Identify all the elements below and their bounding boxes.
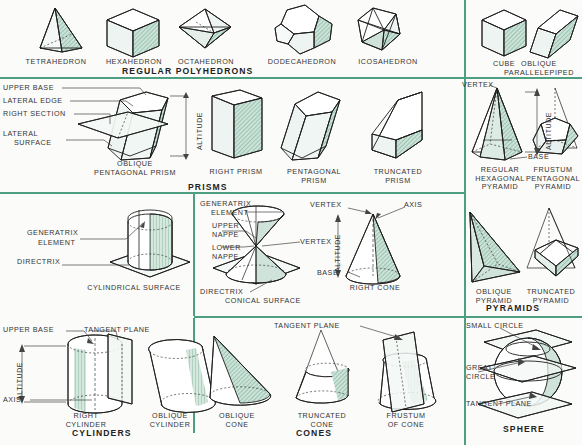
group-label-cylinders: CYLINDERS (72, 428, 132, 438)
group-label-cones: CONES (296, 428, 332, 438)
shape-oblique-cylinder (149, 340, 216, 413)
callout-small-circle: SMALL CIRCLE (466, 322, 524, 331)
label-oblique-cone: OBLIQUE CONE (200, 412, 274, 429)
callout-axis-cylinder: AXIS (3, 396, 21, 405)
shape-truncated-cone (296, 330, 349, 403)
label-oblique-cylinder: OBLIQUE CYLINDER (132, 412, 208, 429)
callout-upper-base-cylinder: UPPER BASE (3, 326, 54, 335)
callout-tangent-plane-cylinder: TANGENT PLANE (84, 326, 150, 335)
shape-oblique-cone (209, 336, 270, 405)
callout-circle: CIRCLE (466, 373, 495, 382)
label-oblique-cone-line2: CONE (200, 421, 274, 430)
shape-frustum-of-cone (378, 332, 436, 412)
label-right-cylinder: RIGHT CYLINDER (48, 412, 124, 429)
label-truncated-cone: TRUNCATED CONE (284, 412, 360, 429)
label-frustum-of-cone: FRUSTUM OF CONE (368, 412, 444, 429)
shape-right-cylinder (68, 334, 132, 413)
group-label-sphere: SPHERE (503, 424, 545, 434)
label-oblique-cylinder-line2: CYLINDER (132, 421, 208, 430)
callout-tangent-plane-sphere: TANGENT PLANE (466, 400, 532, 409)
label-frustum-of-cone-line2: OF CONE (368, 421, 444, 430)
geometric-solids-plate: TETRAHEDRON HEXAHEDRON OCTAHEDRON DODECA… (0, 0, 582, 445)
callout-tangent-plane-cone: TANGENT PLANE (274, 322, 340, 331)
